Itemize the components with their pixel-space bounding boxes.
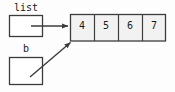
array-cell-value-1: 5 (94, 21, 118, 31)
variable-label-list: list (9, 3, 43, 13)
array-cell-value-2: 6 (118, 21, 142, 31)
array-cell-value-3: 7 (142, 21, 166, 31)
pointer-diagram: list b 4 5 6 7 (0, 0, 175, 92)
array-cell-value-0: 4 (70, 21, 94, 31)
variable-label-b: b (9, 44, 43, 54)
